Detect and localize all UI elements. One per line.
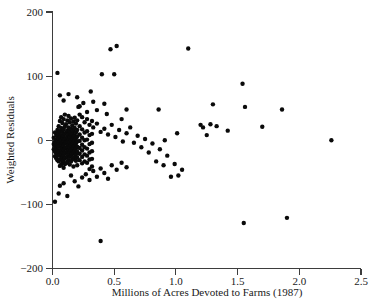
data-points-layer [52, 44, 334, 243]
data-point [87, 178, 91, 182]
data-point [95, 175, 99, 179]
data-point [98, 166, 102, 170]
data-point [85, 110, 89, 114]
data-point [106, 132, 110, 136]
y-tick-label-100: 100 [27, 70, 44, 82]
data-point [161, 163, 165, 167]
data-point [175, 131, 179, 135]
data-point [139, 145, 143, 149]
data-point [98, 130, 102, 134]
data-point [80, 175, 84, 179]
data-point [75, 118, 79, 122]
data-point [226, 128, 230, 132]
data-point [73, 179, 77, 183]
data-point [135, 134, 139, 138]
data-point [95, 108, 99, 112]
y-tick-label--200: −200 [20, 262, 43, 274]
data-point [90, 157, 94, 161]
data-point [90, 132, 94, 136]
data-point [89, 89, 93, 93]
data-point [98, 239, 102, 243]
data-point [124, 165, 128, 169]
data-point [58, 93, 62, 97]
data-point [260, 125, 264, 129]
data-point [117, 128, 121, 132]
data-point [180, 168, 184, 172]
y-tick-label-200: 200 [27, 6, 44, 18]
data-point [154, 159, 158, 163]
data-point [61, 166, 65, 170]
data-point [102, 127, 106, 131]
data-point [75, 128, 79, 132]
data-point [100, 72, 104, 76]
data-point [214, 124, 218, 128]
data-point [77, 104, 81, 108]
data-point [87, 123, 91, 127]
data-point [243, 105, 247, 109]
data-point [90, 164, 94, 168]
data-point [80, 115, 84, 119]
data-point [165, 153, 169, 157]
data-point [90, 149, 94, 153]
data-point [65, 194, 69, 198]
data-point [85, 117, 89, 121]
data-point [56, 191, 60, 195]
plot-canvas: −200−1000100200 0.00.51.01.52.02.5 Milli… [0, 0, 374, 304]
data-point [242, 221, 246, 225]
data-point [132, 141, 136, 145]
data-point [110, 163, 114, 167]
data-point [211, 102, 215, 106]
data-point [156, 107, 160, 111]
data-point [95, 121, 99, 125]
data-point [53, 200, 57, 204]
data-point [128, 125, 132, 129]
data-point [114, 44, 118, 48]
data-point [169, 175, 173, 179]
y-axis-title: Weighted Residuals [4, 96, 16, 183]
data-point [102, 102, 106, 106]
data-point [102, 171, 106, 175]
data-point [143, 137, 147, 141]
data-point [150, 141, 154, 145]
y-axis-ticks [46, 12, 53, 269]
data-point [55, 71, 59, 75]
data-point [66, 92, 70, 96]
data-point [61, 98, 65, 102]
y-tick-label-0: 0 [38, 134, 44, 146]
data-point [105, 112, 109, 116]
data-point [205, 133, 209, 137]
y-axis-tick-labels: −200−1000100200 [20, 6, 43, 275]
data-point [108, 47, 112, 51]
data-point [75, 95, 79, 99]
data-point [201, 125, 205, 129]
data-point [176, 173, 180, 177]
data-point [124, 131, 128, 135]
data-point [285, 216, 289, 220]
data-point [91, 100, 95, 104]
y-tick-label--100: −100 [20, 198, 43, 210]
data-point [90, 141, 94, 145]
data-point [240, 82, 244, 86]
x-tick-label-2.5: 2.5 [354, 275, 368, 287]
data-point [119, 117, 123, 121]
data-point [186, 46, 190, 50]
data-point [58, 184, 62, 188]
data-point [85, 146, 89, 150]
data-point [85, 129, 89, 133]
scatter-plot-figure: −200−1000100200 0.00.51.01.52.02.5 Milli… [0, 0, 374, 304]
data-point [124, 107, 128, 111]
data-point [119, 160, 123, 164]
x-axis-title: Millions of Acres Devoted to Farms (1987… [112, 286, 303, 299]
data-point [81, 101, 85, 105]
x-axis-ticks [53, 269, 362, 276]
data-point [106, 177, 110, 181]
data-point [280, 107, 284, 111]
data-point [84, 172, 88, 176]
data-point [163, 138, 167, 142]
x-tick-label-0.0: 0.0 [46, 275, 60, 287]
data-point [158, 147, 162, 151]
axis-spines [53, 12, 362, 269]
data-point [69, 173, 73, 177]
data-point [61, 181, 65, 185]
data-point [147, 150, 151, 154]
